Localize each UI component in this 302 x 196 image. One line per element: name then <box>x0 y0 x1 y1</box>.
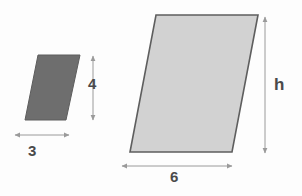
large-height-label: h <box>274 76 284 93</box>
large-parallelogram <box>130 15 258 152</box>
small-base-label: 3 <box>28 143 36 158</box>
large-base-label: 6 <box>170 169 178 184</box>
small-height-label: 4 <box>88 76 96 91</box>
geometry-diagram: 4 3 h 6 <box>0 0 302 196</box>
figure-canvas <box>0 0 302 196</box>
small-parallelogram <box>25 55 80 120</box>
